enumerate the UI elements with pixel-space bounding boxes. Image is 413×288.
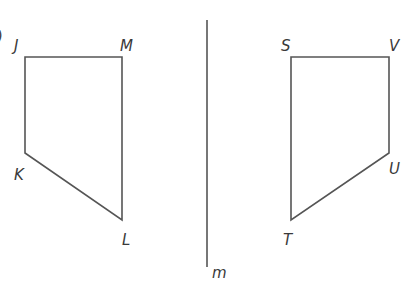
vertex-label-m: M xyxy=(120,37,133,55)
vertex-label-k: K xyxy=(14,166,25,184)
reflection-diagram: ) J M K L m S V U T xyxy=(0,0,413,288)
vertex-label-s: S xyxy=(281,37,291,55)
vertex-label-l: L xyxy=(122,231,130,249)
vertex-label-v: V xyxy=(389,37,401,55)
quadrilateral-jmlk xyxy=(25,57,122,220)
quadrilateral-svut xyxy=(291,57,389,220)
vertex-label-t: T xyxy=(283,231,294,249)
partial-label: ) xyxy=(0,28,3,46)
line-label-m: m xyxy=(212,264,227,282)
vertex-label-j: J xyxy=(11,37,18,55)
vertex-label-u: U xyxy=(389,160,400,178)
